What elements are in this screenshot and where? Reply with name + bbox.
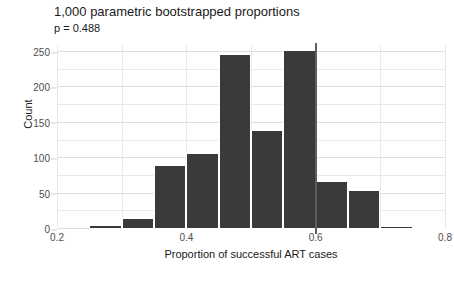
x-tick-label: 0.8 <box>438 232 452 243</box>
x-axis-ticks: 0.20.40.60.8 <box>57 232 445 248</box>
y-tick-label: 150 <box>33 117 50 128</box>
y-axis-ticks: 050100150200250 <box>0 45 50 229</box>
y-tick-label: 250 <box>33 47 50 58</box>
y-tick-mark <box>51 229 57 230</box>
chart-title: 1,000 parametric bootstrapped proportion… <box>54 4 300 19</box>
y-tick-label: 50 <box>39 188 50 199</box>
histogram-bar <box>413 227 445 229</box>
histogram-bar <box>219 54 251 229</box>
histogram-bar <box>186 153 218 229</box>
histogram-bar <box>283 50 315 229</box>
histogram-chart: 1,000 parametric bootstrapped proportion… <box>0 0 454 283</box>
gridline <box>57 45 58 229</box>
gridline <box>445 45 446 229</box>
histogram-bar <box>89 225 121 229</box>
histogram-bar <box>380 226 412 229</box>
histogram-bar <box>122 218 154 229</box>
histogram-bar <box>251 130 283 229</box>
x-tick-label: 0.2 <box>50 232 64 243</box>
x-tick-label: 0.6 <box>309 232 323 243</box>
histogram-bar <box>348 190 380 229</box>
y-tick-label: 100 <box>33 153 50 164</box>
chart-subtitle-pvalue: p = 0.488 <box>54 22 100 34</box>
histogram-bar <box>316 181 348 229</box>
y-tick-label: 200 <box>33 82 50 93</box>
x-tick-label: 0.4 <box>179 232 193 243</box>
observed-value-vline <box>315 43 317 234</box>
gridline <box>380 45 381 229</box>
gridline <box>122 45 123 229</box>
plot-area <box>57 45 445 229</box>
histogram-bar <box>154 165 186 229</box>
x-axis-label: Proportion of successful ART cases <box>57 248 445 260</box>
